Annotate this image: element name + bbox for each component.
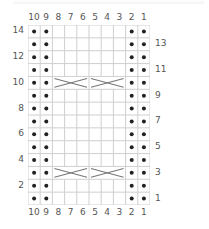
purl-dot-icon bbox=[44, 107, 48, 111]
row-label: 5 bbox=[155, 141, 161, 151]
purl-dot-icon bbox=[32, 81, 36, 85]
purl-dot-icon bbox=[32, 42, 36, 46]
purl-dot-icon bbox=[142, 42, 146, 46]
row-label: 8 bbox=[18, 103, 24, 113]
column-label: 1 bbox=[138, 207, 150, 217]
column-label: 3 bbox=[113, 12, 125, 22]
purl-dot-icon bbox=[142, 55, 146, 59]
chart-grid-svg bbox=[28, 25, 150, 205]
row-label: 4 bbox=[18, 154, 24, 164]
purl-dot-icon bbox=[44, 132, 48, 136]
purl-dot-icon bbox=[44, 171, 48, 175]
column-label: 7 bbox=[65, 207, 77, 217]
column-label: 7 bbox=[65, 12, 77, 22]
row-label: 10 bbox=[13, 77, 24, 87]
purl-dot-icon bbox=[32, 68, 36, 72]
column-label: 2 bbox=[126, 12, 138, 22]
knitting-chart-grid bbox=[28, 25, 150, 205]
purl-dot-icon bbox=[44, 29, 48, 33]
purl-dot-icon bbox=[44, 94, 48, 98]
purl-dot-icon bbox=[142, 158, 146, 162]
cropped-caption-strip bbox=[14, 0, 204, 4]
purl-dot-icon bbox=[130, 55, 134, 59]
purl-dot-icon bbox=[44, 42, 48, 46]
purl-dot-icon bbox=[142, 171, 146, 175]
purl-dot-icon bbox=[32, 55, 36, 59]
purl-dot-icon bbox=[142, 132, 146, 136]
column-label: 9 bbox=[40, 207, 52, 217]
cable-cross-icon bbox=[91, 168, 124, 177]
row-label: 12 bbox=[13, 51, 24, 61]
purl-dot-icon bbox=[130, 68, 134, 72]
column-label: 4 bbox=[101, 12, 113, 22]
cable-cross-icon bbox=[54, 168, 87, 177]
cable-cross-icon bbox=[91, 78, 124, 87]
purl-dot-icon bbox=[44, 158, 48, 162]
purl-dot-icon bbox=[142, 145, 146, 149]
row-label: 6 bbox=[18, 128, 24, 138]
purl-dot-icon bbox=[32, 184, 36, 188]
purl-dot-icon bbox=[32, 119, 36, 123]
purl-dot-icon bbox=[32, 29, 36, 33]
column-label: 4 bbox=[101, 207, 113, 217]
purl-dot-icon bbox=[44, 119, 48, 123]
purl-dot-icon bbox=[142, 94, 146, 98]
column-label: 5 bbox=[89, 207, 101, 217]
purl-dot-icon bbox=[130, 184, 134, 188]
column-label: 6 bbox=[77, 12, 89, 22]
purl-dot-icon bbox=[130, 119, 134, 123]
purl-dot-icon bbox=[130, 107, 134, 111]
purl-dot-icon bbox=[32, 158, 36, 162]
row-label: 9 bbox=[155, 90, 161, 100]
purl-dot-icon bbox=[32, 107, 36, 111]
purl-dot-icon bbox=[44, 81, 48, 85]
purl-dot-icon bbox=[130, 132, 134, 136]
column-label: 8 bbox=[52, 12, 64, 22]
purl-dot-icon bbox=[32, 145, 36, 149]
column-label: 10 bbox=[28, 12, 40, 22]
purl-dot-icon bbox=[130, 42, 134, 46]
column-label: 6 bbox=[77, 207, 89, 217]
purl-dot-icon bbox=[142, 184, 146, 188]
row-label: 7 bbox=[155, 115, 161, 125]
purl-dot-icon bbox=[130, 171, 134, 175]
purl-dot-icon bbox=[32, 197, 36, 201]
purl-dot-icon bbox=[130, 158, 134, 162]
purl-dot-icon bbox=[142, 81, 146, 85]
purl-dot-icon bbox=[142, 197, 146, 201]
purl-dot-icon bbox=[44, 184, 48, 188]
column-label: 5 bbox=[89, 12, 101, 22]
purl-dot-icon bbox=[32, 94, 36, 98]
cable-cross-icon bbox=[54, 78, 87, 87]
purl-dot-icon bbox=[32, 132, 36, 136]
purl-dot-icon bbox=[142, 68, 146, 72]
column-label: 2 bbox=[126, 207, 138, 217]
column-label: 9 bbox=[40, 12, 52, 22]
column-label: 3 bbox=[113, 207, 125, 217]
purl-dot-icon bbox=[44, 145, 48, 149]
row-label: 13 bbox=[155, 38, 166, 48]
purl-dot-icon bbox=[142, 107, 146, 111]
purl-dot-icon bbox=[44, 68, 48, 72]
purl-dot-icon bbox=[130, 197, 134, 201]
row-label: 11 bbox=[155, 64, 166, 74]
purl-dot-icon bbox=[130, 145, 134, 149]
purl-dot-icon bbox=[44, 55, 48, 59]
purl-dot-icon bbox=[130, 94, 134, 98]
row-label: 2 bbox=[18, 180, 24, 190]
column-label: 10 bbox=[28, 207, 40, 217]
purl-dot-icon bbox=[44, 197, 48, 201]
row-label: 1 bbox=[155, 193, 161, 203]
purl-dot-icon bbox=[130, 81, 134, 85]
purl-dot-icon bbox=[142, 119, 146, 123]
row-label: 14 bbox=[13, 25, 24, 35]
purl-dot-icon bbox=[142, 29, 146, 33]
purl-dot-icon bbox=[130, 29, 134, 33]
column-label: 8 bbox=[52, 207, 64, 217]
purl-dot-icon bbox=[32, 171, 36, 175]
row-label: 3 bbox=[155, 167, 161, 177]
column-label: 1 bbox=[138, 12, 150, 22]
